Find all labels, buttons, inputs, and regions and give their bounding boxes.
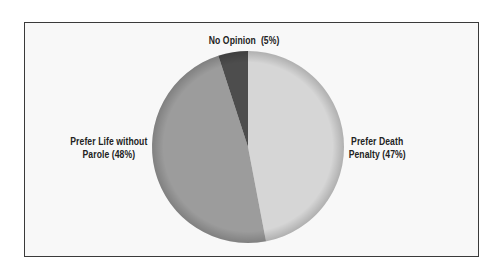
label-death-penalty: Prefer Death Penalty (47%) <box>349 135 406 161</box>
pie-edge-shading <box>152 51 344 243</box>
label-life-line1: Prefer Life without <box>70 135 147 148</box>
label-no-opinion: No Opinion (5%) <box>209 34 280 47</box>
label-life-line2: Parole (48%) <box>70 148 147 161</box>
label-no-opinion-text: No Opinion (5%) <box>209 35 280 46</box>
label-life-without-parole: Prefer Life without Parole (48%) <box>70 135 147 161</box>
label-death-line2: Penalty (47%) <box>349 148 406 161</box>
label-death-line1: Prefer Death <box>349 135 406 148</box>
